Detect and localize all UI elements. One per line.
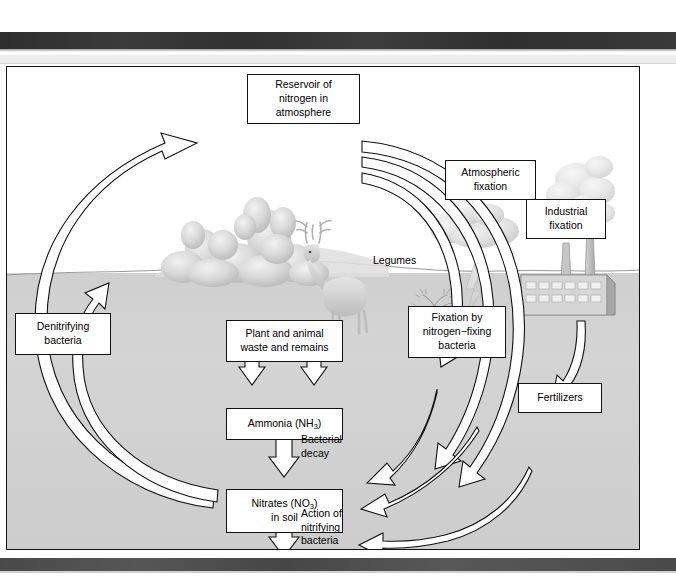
top-black-band [0, 32, 676, 49]
box-plant-animal-waste[interactable]: Plant and animal waste and remains [226, 320, 343, 362]
denitrify-line-1: Denitrifying [37, 320, 90, 332]
nitrifying-l1: Action of [301, 507, 342, 519]
reservoir-line-2: nitrogen in [279, 92, 328, 104]
ammonia-pre: Ammonia (NH [248, 417, 314, 429]
box-atmospheric-fixation[interactable]: Atmospheric fixation [445, 160, 536, 200]
bacfix-line-1: Fixation by [432, 311, 483, 323]
reservoir-line-3: atmosphere [276, 106, 331, 118]
label-nitrifying-action: Action of nitrifying bacteria [301, 507, 371, 548]
bacfix-line-3: bacteria [438, 339, 475, 351]
bacterial-decay-l1: Bacterial [301, 433, 342, 445]
light-strip [0, 55, 676, 64]
ammonia-label: Ammonia (NH3) [248, 417, 322, 432]
bottom-dark-band [0, 558, 676, 571]
label-legumes: Legumes [373, 254, 416, 268]
waste-line-1: Plant and animal [245, 327, 323, 339]
box-reservoir[interactable]: Reservoir of nitrogen in atmosphere [247, 74, 360, 124]
diagram-frame: Reservoir of nitrogen in atmosphere Atmo… [6, 66, 640, 550]
ammonia-post: ) [318, 417, 322, 429]
bacfix-line-2: nitrogen−fixing [423, 325, 492, 337]
reservoir-line-1: Reservoir of [275, 78, 332, 90]
denitrify-line-2: bacteria [44, 334, 81, 346]
bottom-band-highlight [0, 571, 676, 573]
box-industrial-fixation[interactable]: Industrial fixation [526, 199, 606, 239]
nitrifying-l3: bacteria [301, 534, 338, 546]
waste-line-2: waste and remains [240, 341, 328, 353]
top-band-shadow [0, 49, 676, 52]
bacterial-decay-l2: decay [301, 447, 329, 459]
label-bacterial-decay: Bacterial decay [301, 433, 371, 460]
nitrifying-l2: nitrifying [301, 521, 340, 533]
industrial-line-1: Industrial [545, 205, 588, 217]
box-fertilizers[interactable]: Fertilizers [518, 383, 602, 413]
ghost-header-text [180, 2, 676, 14]
atmospheric-line-1: Atmospheric [461, 166, 519, 178]
fertilizers-label: Fertilizers [537, 391, 583, 405]
box-fixation-by-bacteria[interactable]: Fixation by nitrogen−fixing bacteria [408, 306, 506, 358]
atmospheric-line-2: fixation [474, 180, 507, 192]
box-denitrifying-bacteria[interactable]: Denitrifying bacteria [15, 313, 111, 355]
figure-page: Reservoir of nitrogen in atmosphere Atmo… [0, 0, 676, 585]
industrial-line-2: fixation [549, 219, 582, 231]
